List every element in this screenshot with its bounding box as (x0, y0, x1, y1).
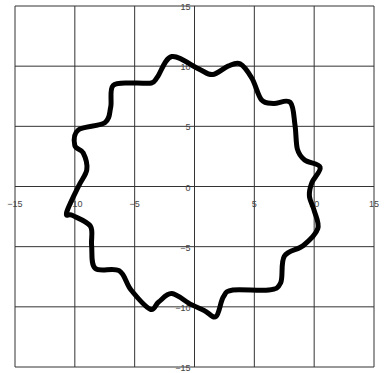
grid-lines (15, 6, 374, 367)
tick-labels: −15−10−551015−15−10−5051015 (7, 2, 379, 373)
chart-canvas: −15−10−551015−15−10−5051015 (0, 0, 384, 373)
y-tick-label: 0 (185, 183, 190, 193)
x-tick-label: −15 (7, 199, 22, 209)
x-tick-label: −5 (130, 199, 140, 209)
x-tick-label: 5 (252, 199, 257, 209)
y-tick-label: 5 (185, 122, 190, 132)
x-tick-label: 15 (369, 199, 379, 209)
y-tick-label: 15 (180, 2, 190, 12)
y-tick-label: −15 (175, 363, 190, 373)
y-tick-label: −5 (180, 243, 190, 253)
